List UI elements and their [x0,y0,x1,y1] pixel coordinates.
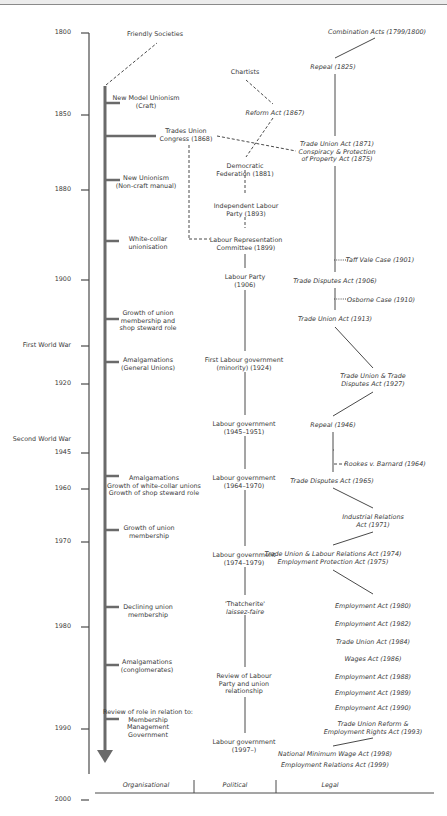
legal-event: Trade Disputes Act (1965) [290,478,374,486]
political-event-line: laissez-faire [225,609,265,617]
year-label: 1945 [55,449,71,457]
political-event-line: (minority) (1924) [205,365,284,373]
legal-event-line: Employment Act (1988) [335,674,411,682]
year-label: 1900 [55,276,71,284]
legal-event-line: National Minimum Wage Act (1998) [278,751,392,759]
legal-event-line: Rookes v. Barnard (1964) [344,461,425,469]
political-event-line: Party (1893) [214,211,279,219]
political-event: DemocraticFederation (1881) [216,163,273,178]
organisational-event: Growth of unionmembership andshop stewar… [120,310,177,333]
organisational-event: Review of role in relation to:Membership… [103,709,193,739]
organisational-event-line: unionisation [128,244,167,252]
legal-event-line: Trade Disputes Act (1965) [290,478,374,486]
legal-event: Employment Act (1990) [335,705,411,713]
legal-event: Taff Vale Case (1901) [346,257,414,265]
column-header-political: Political [223,782,248,790]
legal-event-line: Repeal (1946) [310,422,355,430]
political-event: Labour government(1945–1951) [212,421,275,436]
legal-event-line: Employment Act (1982) [335,621,411,629]
legal-event: Repeal (1946) [310,422,355,430]
column-header-organisational: Organisational [123,782,170,790]
legal-event-line: Employment Rights Act (1993) [324,729,422,737]
organisational-event: Growth of unionmembership [123,525,174,540]
legal-event-line: Trade Union Act (1984) [336,639,410,647]
political-event-line: (1906) [225,282,266,290]
year-label: 1850 [55,111,71,119]
legal-event: Rookes v. Barnard (1964) [344,461,425,469]
organisational-event-line: (Non-craft manual) [116,183,177,191]
political-event-line: Reform Act (1867) [245,110,304,118]
political-event-line: Chartists [231,69,260,77]
legal-event: Trade Union Reform &Employment Rights Ac… [324,721,422,736]
legal-event-line: Employment Act (1990) [335,705,411,713]
political-event-line: (1997–) [212,747,275,755]
political-event-line: Federation (1881) [216,171,273,179]
legal-event-line: Taff Vale Case (1901) [346,257,414,265]
year-label: 1970 [55,538,71,546]
legal-event: Industrial RelationsAct (1971) [342,514,404,529]
year-axis-ticks [81,33,89,800]
organisational-event-line: membership [123,612,173,620]
year-label: 1800 [55,29,71,37]
organisational-event: Amalgamations(conglomerates) [121,659,174,674]
year-label: First World War [23,342,71,350]
legal-event-line: Repeal (1825) [310,64,355,72]
organisational-event-line: Growth of shop steward role [107,490,201,498]
legal-event: Wages Act (1986) [345,656,402,664]
year-label: Second World War [13,436,71,444]
organisational-event-line: shop steward role [120,325,177,333]
year-label: 2000 [55,796,71,804]
organisational-event-line: Government [103,732,193,740]
year-label: 1960 [55,485,71,493]
column-header-legal: Legal [321,782,338,790]
legal-event-line: of Property Act (1875) [298,156,375,164]
organisational-event-line: Friendly Societies [127,31,183,39]
year-label: 1920 [55,380,71,388]
year-label: 1880 [55,186,71,194]
political-event: Labour government(1964–1970) [212,475,275,490]
legal-event: Trade Union Act (1871)Conspiracy & Prote… [298,141,375,164]
legal-event: Osborne Case (1910) [347,297,415,305]
legal-event-line: Employment Act (1989) [335,690,411,698]
legal-event: Combination Acts (1799/1800) [328,29,426,37]
legal-event: Employment Act (1982) [335,621,411,629]
organisational-event: Amalgamations(General Unions) [121,357,175,372]
legal-event: Employment Relations Act (1999) [281,762,389,770]
organisational-event: New Unionism(Non-craft manual) [116,175,177,190]
legal-event-line: Wages Act (1986) [345,656,402,664]
legal-event: National Minimum Wage Act (1998) [278,751,392,759]
organisational-arrow-head [97,750,113,763]
organisational-event: New Model Unionism(Craft) [113,95,180,110]
legal-event-line: Employment Relations Act (1999) [281,762,389,770]
legal-event-line: Combination Acts (1799/1800) [328,29,426,37]
organisational-event: Declining unionmembership [123,604,173,619]
organisational-event: White-collarunionisation [128,236,167,251]
political-event-line: relationship [216,688,271,696]
organisational-event: Trades UnionCongress (1868) [160,128,213,143]
legal-event: Employment Act (1980) [335,603,411,611]
legal-event: Trade Union Act (1984) [336,639,410,647]
political-event: 'Thatcherite'laissez-faire [225,601,265,616]
legal-event-line: Osborne Case (1910) [347,297,415,305]
legal-event-line: Employment Act (1980) [335,603,411,611]
political-event: Reform Act (1867) [245,110,304,118]
legal-event-line: Disputes Act (1927) [340,381,405,389]
legal-event: Employment Act (1989) [335,690,411,698]
legal-event: Trade Union Act (1913) [298,316,372,324]
political-event-line: Committee (1899) [210,245,283,253]
legal-event-line: Trade Disputes Act (1906) [293,278,377,286]
political-event-line: (1964–1970) [212,483,275,491]
political-event: Labour government(1997–) [212,739,275,754]
organisational-event-line: Congress (1868) [160,136,213,144]
political-event: Independent LabourParty (1893) [214,203,279,218]
organisational-event-line: membership [123,533,174,541]
legal-event-line: Employment Protection Act (1975) [265,559,402,567]
legal-event-line: Act (1971) [342,522,404,530]
organisational-event-line: (General Unions) [121,365,175,373]
political-event: First Labour government(minority) (1924) [205,357,284,372]
legal-event: Trade Disputes Act (1906) [293,278,377,286]
political-event: Chartists [231,69,260,77]
political-event: Labour RepresentationCommittee (1899) [210,237,283,252]
legal-event: Repeal (1825) [310,64,355,72]
organisational-event: AmalgamationsGrowth of white-collar unio… [107,475,201,498]
